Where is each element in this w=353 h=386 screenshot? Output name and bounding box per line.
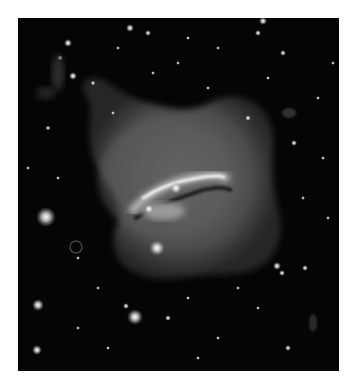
galaxy-render [18,18,339,371]
ring-artifact [70,241,82,253]
astronomy-image: Grayscale astronomical image of a galaxy… [18,18,339,371]
